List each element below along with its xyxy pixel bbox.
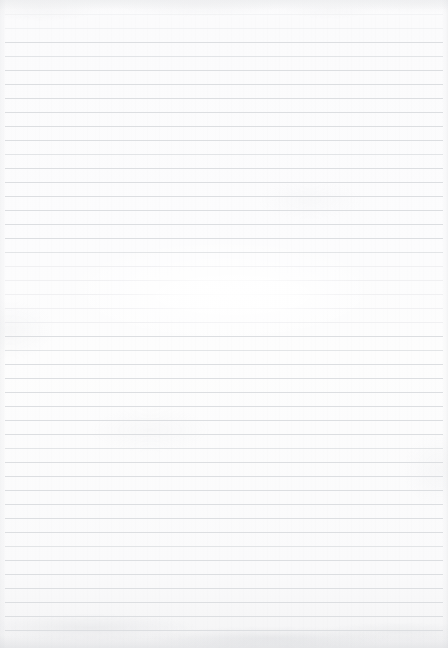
rule-line	[5, 574, 443, 575]
rule-line	[5, 168, 443, 169]
rule-line	[5, 28, 443, 29]
rule-line	[5, 196, 443, 197]
rule-line	[5, 56, 443, 57]
rule-line	[5, 84, 443, 85]
rule-line	[5, 406, 443, 407]
rule-line	[5, 434, 443, 435]
ruled-lines-group	[0, 0, 448, 648]
rule-line	[5, 126, 443, 127]
rule-line	[5, 182, 443, 183]
rule-line	[5, 518, 443, 519]
rule-line	[5, 98, 443, 99]
rule-line	[5, 364, 443, 365]
rule-line	[5, 588, 443, 589]
rule-line	[5, 630, 443, 631]
rule-line	[5, 140, 443, 141]
rule-line	[5, 154, 443, 155]
rule-line	[5, 308, 443, 309]
rule-line	[5, 462, 443, 463]
rule-line	[5, 476, 443, 477]
rule-line	[5, 616, 443, 617]
rule-line	[5, 224, 443, 225]
rule-line	[5, 378, 443, 379]
rule-line	[5, 350, 443, 351]
rule-line	[5, 420, 443, 421]
rule-line	[5, 532, 443, 533]
rule-line	[5, 546, 443, 547]
rule-line	[5, 42, 443, 43]
rule-line	[5, 490, 443, 491]
rule-line	[5, 602, 443, 603]
rule-line	[5, 560, 443, 561]
rule-line	[5, 266, 443, 267]
rule-line	[5, 210, 443, 211]
rule-line	[5, 504, 443, 505]
rule-line	[5, 448, 443, 449]
rule-line	[5, 252, 443, 253]
rule-line	[5, 280, 443, 281]
rule-line	[5, 112, 443, 113]
rule-line	[5, 70, 443, 71]
ruled-paper-page	[0, 0, 448, 648]
rule-line	[5, 322, 443, 323]
rule-line	[5, 14, 443, 15]
rule-line	[5, 336, 443, 337]
rule-line	[5, 392, 443, 393]
rule-line	[5, 238, 443, 239]
rule-line	[5, 294, 443, 295]
